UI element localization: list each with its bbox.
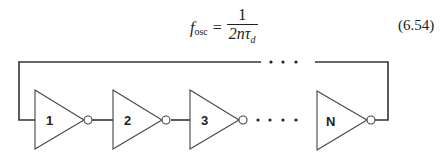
top-ellipsis [269, 60, 297, 63]
inverter-n-label: N [326, 114, 335, 129]
inverter-3-bubble [239, 116, 247, 124]
inverter-2 [113, 90, 170, 149]
ring-oscillator-diagram: 1 2 3 N [0, 0, 440, 163]
inverter-n-bubble [367, 116, 375, 124]
inverter-2-label: 2 [124, 113, 131, 128]
inverter-2-bubble [162, 116, 170, 124]
inverter-1-label: 1 [46, 113, 53, 128]
inverter-3 [190, 90, 247, 149]
inverter-1 [35, 90, 92, 149]
inverter-1-bubble [84, 116, 92, 124]
bottom-ellipsis [256, 118, 297, 121]
inverter-3-label: 3 [201, 113, 208, 128]
